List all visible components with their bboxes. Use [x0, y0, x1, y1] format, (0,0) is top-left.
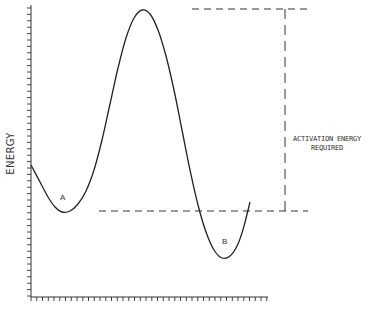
annotation-line-2: REQUIRED — [280, 144, 373, 153]
x-axis-ticks — [31, 297, 267, 301]
energy-diagram — [0, 0, 373, 311]
energy-curve — [31, 10, 250, 259]
y-axis-ticks — [27, 8, 31, 296]
y-axis-label: ENERGY — [5, 131, 16, 177]
annotation-line-1: ACTIVATION ENERGY — [280, 135, 373, 144]
point-a-label: A — [60, 193, 65, 202]
activation-energy-annotation: ACTIVATION ENERGY REQUIRED — [280, 135, 373, 153]
point-b-label: B — [222, 237, 227, 246]
